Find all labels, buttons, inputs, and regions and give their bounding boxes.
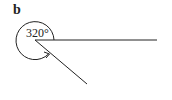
- diagonal-ray: [35, 40, 87, 84]
- reflex-angle-diagram: [0, 0, 172, 100]
